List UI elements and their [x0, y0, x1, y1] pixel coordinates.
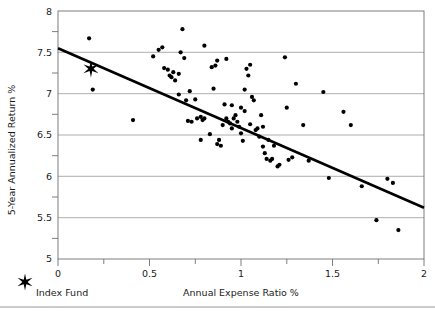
data-point [173, 78, 177, 82]
data-point [186, 119, 190, 123]
legend-star-icon [18, 273, 33, 290]
data-point [341, 110, 345, 114]
data-point [391, 181, 395, 185]
data-point [261, 144, 265, 148]
x-tick-labels: 0 0.5 1 1.5 2 [55, 268, 427, 279]
data-point [285, 106, 289, 110]
data-point [162, 66, 166, 70]
data-point [277, 163, 281, 167]
scatter-chart-figure: 5-Year Annualized Return % 8 7.5 7 6.5 6… [0, 0, 435, 311]
y-axis-title-text: 5-Year Annualized Return % [6, 85, 17, 216]
data-point [270, 157, 274, 161]
data-point [259, 113, 263, 117]
data-point [233, 113, 237, 117]
trend-line [58, 48, 424, 208]
data-point [157, 48, 161, 52]
data-point [87, 36, 91, 40]
data-point [199, 138, 203, 142]
y-tick-labels: 8 7.5 7 6.5 6 5.5 5 [37, 6, 52, 264]
data-point [396, 228, 400, 232]
y-minor-ticks [52, 32, 58, 239]
y-tick-label: 6 [46, 171, 52, 182]
data-point [151, 54, 155, 58]
data-point [208, 132, 212, 136]
data-point [177, 92, 181, 96]
y-tick-label: 7 [46, 88, 52, 99]
legend-index-fund-label: Index Fund [36, 287, 88, 298]
data-point [283, 55, 287, 59]
data-point [221, 123, 225, 127]
y-tick-label: 5.5 [37, 212, 52, 223]
y-axis-title: 5-Year Annualized Return % [6, 85, 17, 216]
data-point [210, 65, 214, 69]
data-point [360, 184, 364, 188]
data-point [327, 176, 331, 180]
index-fund-star-marker [83, 60, 98, 77]
plot-area [52, 11, 424, 266]
x-axis-title-text: Annual Expense Ratio % [183, 287, 299, 298]
data-point [215, 59, 219, 63]
x-tick-label: 2 [421, 268, 427, 279]
data-point [349, 123, 353, 127]
data-point [265, 157, 269, 161]
data-point [263, 151, 267, 155]
data-point [248, 63, 252, 67]
data-point [321, 90, 325, 94]
data-point [286, 158, 290, 162]
data-point [290, 155, 294, 159]
data-point [248, 122, 252, 126]
index-fund-marker [83, 60, 98, 77]
data-point [180, 27, 184, 31]
x-ticks [58, 259, 424, 266]
data-point [177, 72, 181, 76]
x-tick-label: 0 [55, 268, 61, 279]
data-point [171, 70, 175, 74]
data-point [385, 177, 389, 181]
y-tick-label: 8 [46, 6, 52, 17]
x-tick-label: 0.5 [142, 268, 157, 279]
y-tick-label: 5 [46, 253, 52, 264]
y-tick-label: 7.5 [37, 47, 52, 58]
data-point [252, 98, 256, 102]
data-point [255, 126, 259, 130]
data-point [193, 97, 197, 101]
data-point [261, 125, 265, 129]
data-point [202, 116, 206, 120]
data-point [224, 57, 228, 61]
data-point [182, 56, 186, 60]
data-point [160, 45, 164, 49]
data-point [213, 63, 217, 67]
x-tick-label: 1.5 [325, 268, 340, 279]
data-point [241, 139, 245, 143]
data-point [217, 138, 221, 142]
chart-svg: 5-Year Annualized Return % 8 7.5 7 6.5 6… [0, 0, 435, 311]
data-point [184, 98, 188, 102]
x-tick-label: 1 [238, 268, 244, 279]
data-point [230, 126, 234, 130]
data-point [374, 218, 378, 222]
data-point [179, 50, 183, 54]
data-point [244, 67, 248, 71]
legend: Index Fund [18, 273, 89, 298]
data-point [91, 87, 95, 91]
y-tick-label: 6.5 [37, 129, 52, 140]
data-point [195, 116, 199, 120]
data-point [301, 123, 305, 127]
data-point [211, 87, 215, 91]
data-point [230, 103, 234, 107]
data-point [239, 131, 243, 135]
data-point [188, 89, 192, 93]
data-point [131, 118, 135, 122]
data-point [235, 120, 239, 124]
data-point [189, 120, 193, 124]
data-point [202, 44, 206, 48]
data-point [166, 68, 170, 72]
data-point [246, 73, 250, 77]
data-point [219, 144, 223, 148]
data-point [169, 75, 173, 79]
data-point [222, 102, 226, 106]
data-point [294, 82, 298, 86]
data-point [239, 106, 243, 110]
data-point [243, 109, 247, 113]
data-point [243, 87, 247, 91]
